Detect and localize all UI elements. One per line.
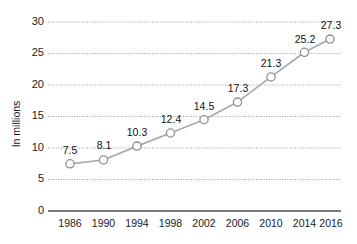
- data-point-2010: [267, 73, 275, 81]
- value-label-2014: 25.2: [295, 33, 316, 45]
- y-tick-20: 20: [32, 78, 44, 90]
- value-label-2002: 14.5: [194, 100, 215, 112]
- y-tick-5: 5: [38, 172, 44, 184]
- x-tick-2002: 2002: [192, 217, 216, 229]
- y-tick-0: 0: [38, 204, 44, 216]
- data-point-1994: [133, 142, 141, 150]
- data-point-1986: [66, 160, 74, 168]
- data-point-2006: [233, 98, 241, 106]
- x-tick-2016: 2016: [319, 217, 343, 229]
- y-axis-tick-labels: 30 25 20 15 10 5 0: [32, 15, 44, 216]
- data-point-1990: [99, 156, 107, 164]
- value-label-1990: 8.1: [97, 139, 112, 151]
- y-tick-15: 15: [32, 109, 44, 121]
- x-tick-2006: 2006: [226, 217, 250, 229]
- y-tick-25: 25: [32, 46, 44, 58]
- x-tick-2010: 2010: [259, 217, 283, 229]
- value-label-2006: 17.3: [228, 82, 249, 94]
- chart-canvas: 30 25 20 15 10 5 0 In millions 7.5 8: [0, 0, 357, 244]
- data-value-labels: 7.5 8.1 10.3 12.4 14.5 17.3 21.3 25.2 27…: [63, 19, 342, 156]
- y-tick-30: 30: [32, 15, 44, 27]
- value-label-2016: 27.3: [321, 19, 342, 31]
- value-label-1994: 10.3: [127, 126, 148, 138]
- y-axis-title: In millions: [10, 101, 22, 148]
- line-chart: 30 25 20 15 10 5 0 In millions 7.5 8: [0, 0, 357, 244]
- value-label-1998: 12.4: [161, 113, 182, 125]
- x-tick-1986: 1986: [58, 217, 82, 229]
- x-tick-2014: 2014: [293, 217, 317, 229]
- x-tick-1998: 1998: [159, 217, 183, 229]
- value-label-1986: 7.5: [63, 144, 78, 156]
- x-tick-1994: 1994: [125, 217, 149, 229]
- x-axis-tick-labels: 1986 1990 1994 1998 2002 2006 2010 2014 …: [58, 217, 343, 229]
- data-point-2016: [326, 35, 334, 43]
- x-tick-1990: 1990: [92, 217, 116, 229]
- data-point-1998: [166, 129, 174, 137]
- value-label-2010: 21.3: [261, 57, 282, 69]
- data-point-2002: [200, 116, 208, 124]
- data-point-2014: [300, 48, 308, 56]
- y-tick-10: 10: [32, 141, 44, 153]
